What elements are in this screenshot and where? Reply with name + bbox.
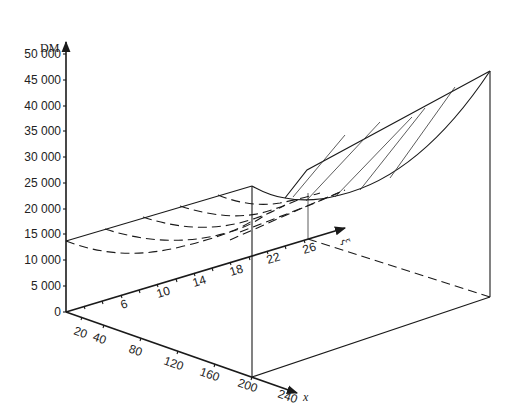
x-tick-label: 160: [198, 365, 222, 385]
bounding-box: [252, 71, 490, 377]
xi-tick-label: 18: [228, 261, 245, 278]
z-tick-label: 15 000: [24, 227, 61, 241]
diagram-canvas: DM 0 5 000 10 000 15 000 20 000 25 000 3…: [0, 0, 515, 420]
x-tick-label: 80: [127, 342, 144, 360]
cost-surface: [66, 71, 490, 253]
z-tick-label: 20 000: [24, 202, 61, 216]
xi-tick-label: 22: [265, 249, 282, 266]
z-tick-label: 25 000: [24, 176, 61, 190]
x-tick-label: 20: [72, 324, 89, 342]
x-tick-label: 240: [276, 387, 300, 407]
x-tick-label: 120: [162, 354, 186, 374]
z-tick-label: 30 000: [24, 150, 61, 164]
xi-axis-label: ξ: [338, 236, 353, 246]
xi-tick-label: 14: [191, 272, 208, 289]
x-axis: 20 40 80 120 160 200 240 x: [66, 312, 309, 406]
diagram-3d-cost-surface: DM 0 5 000 10 000 15 000 20 000 25 000 3…: [0, 0, 515, 420]
z-tick-label: 50 000: [24, 47, 61, 61]
z-tick-label: 35 000: [24, 124, 61, 138]
z-tick-label: 40 000: [24, 99, 61, 113]
xi-axis: 6 10 14 18 22 26 ξ: [66, 228, 353, 312]
z-tick-label: 5 000: [31, 279, 61, 293]
xi-tick-label: 6: [119, 296, 130, 311]
z-tick-label: 10 000: [24, 253, 61, 267]
x-tick-label: 40: [91, 330, 108, 348]
z-tick-label: 0: [54, 305, 61, 319]
x-axis-label: x: [302, 390, 309, 404]
z-tick-label: 45 000: [24, 73, 61, 87]
xi-tick-label: 10: [155, 283, 172, 300]
xi-tick-label: 26: [301, 239, 318, 256]
z-axis: DM 0 5 000 10 000 15 000 20 000 25 000 3…: [24, 41, 66, 319]
